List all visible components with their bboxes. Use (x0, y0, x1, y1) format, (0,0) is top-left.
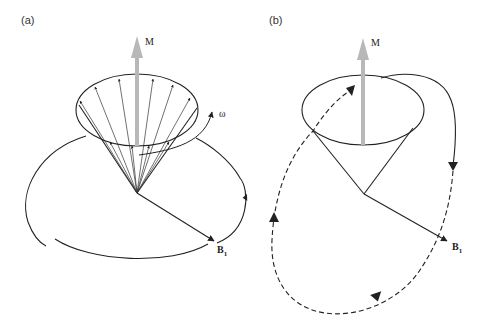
magnetization-label-b: M (371, 37, 380, 48)
cone-side-right (137, 108, 197, 193)
nutation-arrow-up-icon (269, 212, 279, 222)
b1-vector (137, 193, 214, 241)
panel-a-label: (a) (21, 14, 34, 26)
b1-symbol: B (217, 244, 224, 255)
cone-side-left (79, 105, 137, 193)
b1-symbol-b: B (452, 241, 459, 252)
nutation-arrow-lowerright-icon (370, 287, 384, 301)
diagram-canvas (0, 0, 479, 334)
b1-orbit-right (196, 138, 246, 243)
magnetization-arrow-icon-b (357, 38, 369, 60)
omega-label: ω (219, 108, 226, 119)
magnetization-label-a: M (145, 36, 154, 47)
orbit-arrow-icon (242, 194, 248, 202)
nutation-arrow-down-icon (448, 162, 458, 171)
omega-rotation-arrow (139, 112, 212, 155)
panel-a (26, 36, 249, 259)
nutation-arrow-top-icon (346, 85, 355, 96)
magnetization-arrow-icon (131, 36, 143, 58)
panel-b-label: (b) (269, 14, 282, 26)
b1-label-a: B1 (217, 244, 227, 258)
cone-side-left-b (313, 131, 364, 194)
b1-orbit-back (26, 136, 86, 246)
nutation-path-solid (381, 74, 455, 166)
cone-side-right-b (364, 128, 413, 194)
b1-label-b: B1 (452, 241, 462, 255)
b1-orbit-front (55, 239, 208, 259)
b1-subscript-b: 1 (459, 247, 463, 255)
b1-vector-b (364, 194, 447, 241)
b1-subscript: 1 (224, 250, 228, 258)
panel-b (269, 38, 458, 314)
